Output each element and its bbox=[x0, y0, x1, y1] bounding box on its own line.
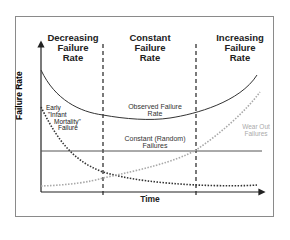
label-line: Constant (Random) bbox=[110, 135, 200, 142]
region-header-decreasing: Decreasing Failure Rate bbox=[38, 33, 108, 63]
observed-failure-label: Observed Failure Rate bbox=[115, 103, 195, 118]
label-line: Failures bbox=[238, 131, 274, 138]
x-axis-label: Time bbox=[130, 195, 170, 204]
region-header-line: Rate bbox=[205, 53, 275, 63]
label-line: Rate bbox=[115, 110, 195, 117]
label-line: Observed Failure bbox=[115, 103, 195, 110]
region-header-increasing: Increasing Failure Rate bbox=[205, 33, 275, 63]
region-header-line: Rate bbox=[115, 53, 185, 63]
region-header-constant: Constant Failure Rate bbox=[115, 33, 185, 63]
constant-failures-label: Constant (Random) Failures bbox=[110, 135, 200, 150]
early-failure-label: Early "Infant Mortality" Failure bbox=[44, 105, 86, 132]
region-header-line: Rate bbox=[38, 53, 108, 63]
y-axis-label: Failure Rate bbox=[14, 71, 24, 120]
label-line: Failure bbox=[44, 125, 86, 132]
wearout-failure-label: Wear Out Failures bbox=[238, 124, 274, 138]
label-line: Failures bbox=[110, 142, 200, 149]
